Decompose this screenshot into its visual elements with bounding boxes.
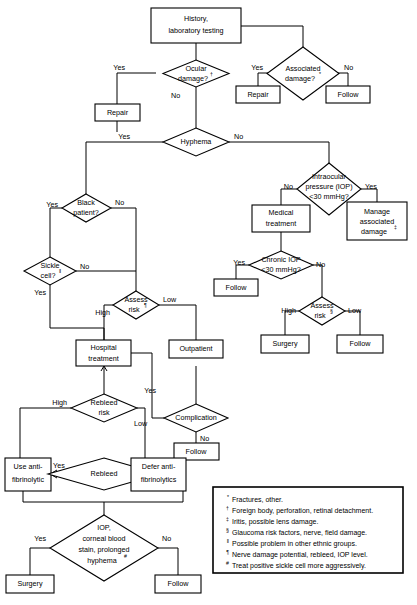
edge-label-complication-yes: Yes — [144, 386, 156, 395]
node-assess-risk-nerve[interactable]: Assess risk ¶ — [113, 291, 159, 319]
edge-label-rebleedrisk-high: High — [52, 398, 67, 407]
node-repair2-label: Repair — [247, 90, 269, 99]
node-black-patient[interactable]: Black patient? — [62, 194, 111, 222]
edge-label-sickle-no: No — [80, 262, 89, 271]
node-history-line1: History, — [184, 14, 208, 23]
legend-mark-3: § — [226, 527, 229, 533]
legend-text-3: Glaucoma risk factors, nerve, field dama… — [232, 529, 367, 537]
edge-label-black-no: No — [115, 198, 124, 207]
node-repair1-label: Repair — [107, 108, 129, 117]
node-hyphema-label: Hyphema — [181, 137, 212, 146]
node-repair-ocular[interactable]: Repair — [95, 104, 140, 121]
edge-label-iopcorneal-no: No — [162, 534, 171, 543]
edge-label-ocular-yes: Yes — [113, 63, 125, 72]
edge-label-iop-no: No — [284, 182, 293, 191]
edge-label-rebleedrisk-low: Low — [134, 419, 148, 428]
legend-text-6: Treat positive sickle cell more aggressi… — [232, 562, 366, 570]
node-follow-associated[interactable]: Follow — [326, 86, 370, 103]
node-defer-antifibrinolytics[interactable]: Defer anti- fibrinolytics — [131, 458, 186, 491]
node-chronic-iop[interactable]: Chronic IOP <30 mmHg? — [249, 251, 313, 279]
node-manage-superscript: ‡ — [394, 224, 397, 230]
node-manage-associated-damage[interactable]: Manage associated damage ‡ — [347, 202, 407, 240]
node-assoc-line2: damage? — [285, 74, 315, 83]
node-iopcorneal-line4: hyphema — [87, 556, 117, 565]
node-ocular-damage[interactable]: Ocular damage? † — [163, 60, 229, 87]
node-black-line1: Black — [77, 198, 95, 207]
node-sickle-cell[interactable]: Sickle cell? ‖ — [24, 257, 76, 285]
node-follow4-label: Follow — [186, 447, 208, 456]
node-history-line2: laboratory testing — [168, 26, 223, 35]
node-useanti-line1: Use anti- — [14, 462, 43, 471]
node-iop-line3: <30 mmHg? — [309, 192, 348, 201]
edge-label-chronic-yes: Yes — [233, 258, 245, 267]
node-manage-line1: Manage — [364, 207, 390, 216]
node-follow-chronic[interactable]: Follow — [214, 279, 258, 296]
node-assess-p-line2: risk — [128, 305, 140, 314]
edge-label-iopcorneal-yes: Yes — [34, 534, 46, 543]
edge-label-assess-s-high: High — [281, 306, 296, 315]
node-surgery1-label: Surgery — [272, 339, 298, 348]
legend-text-4: Possible problem in other ethnic groups. — [232, 540, 357, 548]
node-assess-p-superscript: ¶ — [144, 302, 147, 308]
node-iopcorneal-superscript: # — [124, 553, 127, 559]
edge-label-assess-p-high: High — [95, 308, 110, 317]
edge-label-assoc-yes: Yes — [251, 63, 263, 72]
node-rebleed-label: Rebleed — [91, 469, 118, 478]
node-surgery-final[interactable]: Surgery — [6, 575, 54, 593]
edge-label-iop-yes: Yes — [365, 182, 377, 191]
node-iopcorneal-line3: stain, prolonged — [78, 545, 129, 554]
legend-mark-2: ‡ — [226, 516, 229, 522]
node-complication[interactable]: Complication — [164, 404, 228, 432]
edge-label-sickle-yes: Yes — [34, 288, 46, 297]
legend: * Fractures, other. † Foreign body, perf… — [213, 487, 403, 573]
node-iop-line2: pressure (IOP) — [305, 182, 352, 191]
node-use-antifibrinolytic[interactable]: Use anti- fibrinolytic — [5, 458, 51, 491]
node-hospital-treatment[interactable]: Hospital treatment — [76, 340, 131, 366]
node-surgery2-label: Surgery — [17, 579, 43, 588]
legend-mark-4: ‖ — [227, 538, 229, 544]
node-sickle-line2: cell? — [41, 271, 56, 280]
node-chronic-line2: <30 mmHg? — [261, 265, 300, 274]
node-iop-corneal-bloodstain[interactable]: IOP, corneal blood stain, prolonged hyph… — [50, 515, 158, 581]
node-assess-s-line2: risk — [314, 311, 326, 320]
node-medical-line2: treatment — [266, 219, 296, 228]
node-follow1-label: Follow — [338, 90, 360, 99]
node-sickle-superscript: ‖ — [59, 268, 61, 274]
node-deferanti-line1: Defer anti- — [142, 462, 176, 471]
node-sickle-line1: Sickle — [40, 261, 59, 270]
node-medical-line1: Medical — [269, 208, 294, 217]
node-surgery-glaucoma[interactable]: Surgery — [261, 335, 309, 353]
flowchart-canvas: History, laboratory testing Ocular damag… — [0, 0, 417, 605]
edge-label-assoc-no: No — [344, 63, 353, 72]
node-ocular-line2: damage? — [178, 74, 208, 83]
node-follow3-label: Follow — [350, 339, 372, 348]
node-medical-treatment[interactable]: Medical treatment — [252, 205, 310, 232]
node-repair-associated[interactable]: Repair — [236, 86, 280, 103]
edge-label-hyphema-no: No — [234, 132, 243, 141]
node-follow-glaucoma[interactable]: Follow — [337, 335, 383, 353]
legend-text-1: Foreign body, perforation, retinal detac… — [232, 507, 373, 515]
node-black-line2: patient? — [73, 208, 99, 217]
node-outpatient[interactable]: Outpatient — [169, 340, 223, 358]
edge-label-hyphema-yes: Yes — [118, 132, 130, 141]
node-rebleedrisk-line1: Rebleed — [91, 398, 118, 407]
legend-mark-1: † — [226, 505, 229, 511]
node-iopcorneal-line1: IOP, — [97, 523, 110, 532]
node-hyphema[interactable]: Hyphema — [163, 128, 229, 156]
legend-text-2: Iritis, possible lens damage. — [232, 518, 318, 526]
legend-text-0: Fractures, other. — [232, 496, 283, 503]
edge-label-assess-s-low: Low — [348, 306, 362, 315]
node-rebleedrisk-line2: risk — [98, 408, 110, 417]
node-chronic-line1: Chronic IOP — [261, 255, 300, 264]
node-follow2-label: Follow — [226, 283, 248, 292]
edge-label-chronic-no: No — [316, 260, 325, 269]
node-rebleed-risk[interactable]: Rebleed risk — [71, 394, 137, 422]
edge-label-assess-p-low: Low — [163, 295, 177, 304]
node-follow-final[interactable]: Follow — [155, 575, 201, 593]
node-assoc-superscript: * — [319, 71, 321, 77]
node-ocular-line1: Ocular — [185, 64, 207, 73]
node-assess-s-superscript: § — [330, 308, 333, 314]
node-history[interactable]: History, laboratory testing — [151, 8, 241, 43]
node-iopcorneal-line2: corneal blood — [82, 534, 125, 543]
node-assess-risk-glaucoma[interactable]: Assess risk § — [299, 297, 345, 325]
